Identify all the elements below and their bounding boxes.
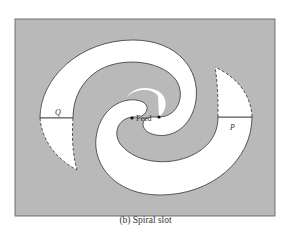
- feed-point-left: [130, 116, 133, 119]
- feed-point-right: [157, 115, 160, 118]
- spiral-slot-diagram: Feed Q P: [0, 0, 291, 235]
- port-label-q: Q: [55, 108, 61, 117]
- figure-caption: (b) Spiral slot: [0, 215, 291, 225]
- port-label-p: P: [229, 123, 235, 132]
- feed-label: Feed: [136, 114, 152, 123]
